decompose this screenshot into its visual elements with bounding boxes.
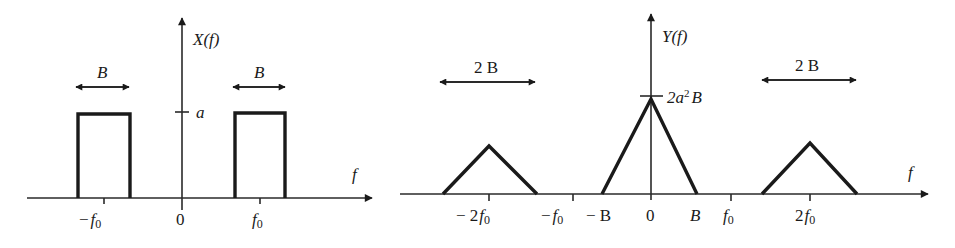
tick-label-f0-right: f0	[723, 206, 734, 227]
rect-pulse-f0	[235, 113, 285, 198]
left-plot-x-of-f: B B X(f) a f −f0 0 f0	[27, 18, 372, 231]
triangle-neg-2f0	[443, 146, 537, 194]
triangle-center	[602, 99, 697, 194]
right-plot-y-of-f: 2 B 2 B Y(f) 2a2B f − 2f0 −f0 − B 0 B f0…	[400, 14, 928, 227]
tick-label-B: B	[690, 206, 701, 225]
level-label-a: a	[196, 103, 205, 122]
tick-label-neg-f0: −f0	[79, 210, 101, 231]
x-axis-label-f-right: f	[908, 163, 915, 182]
tick-label-f0-left: f0	[252, 210, 263, 231]
tick-label-neg-2f0: − 2f0	[456, 206, 490, 227]
tick-label-neg-B: − B	[586, 206, 611, 225]
width-label-2b-left: 2 B	[474, 58, 498, 77]
y-axis-label-x-of-f: X(f)	[192, 30, 220, 49]
tick-label-zero-right: 0	[646, 206, 655, 225]
width-label-2b-right: 2 B	[795, 56, 819, 75]
y-axis-label-y-of-f: Y(f)	[662, 27, 688, 46]
width-label-right: B	[254, 63, 265, 82]
triangle-2f0	[762, 143, 857, 194]
x-axis-label-f-left: f	[352, 165, 359, 184]
rect-pulse-neg-f0	[78, 114, 130, 198]
width-label-left: B	[97, 63, 108, 82]
tick-label-neg-f0-right: −f0	[541, 206, 563, 227]
tick-label-zero-left: 0	[176, 210, 185, 229]
peak-label-2a2B: 2a2B	[667, 87, 703, 107]
spectrum-diagram: B B X(f) a f −f0 0 f0 2 B 2 B Y	[0, 0, 955, 248]
tick-label-2f0: 2f0	[795, 206, 815, 227]
